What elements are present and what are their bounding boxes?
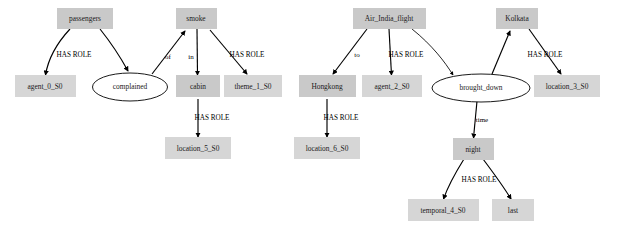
node-last[interactable]: last [492,199,534,221]
node-location_5_S0-label: location_5_S0 [177,144,220,153]
edge-label-of: of [165,53,172,61]
node-location_6_S0[interactable]: location_6_S0 [294,137,360,159]
edge-label-has-role-hongkong: HAS ROLE [324,114,360,122]
node-location_5_S0[interactable]: location_5_S0 [165,137,231,159]
node-night[interactable]: night [453,138,494,160]
edge-label-to: to [354,51,360,59]
node-last-label: last [508,206,519,215]
edge-label-has-role-night: HAS ROLE [462,176,498,184]
edge-brought_down-Kolkata [492,31,510,74]
node-agent_0_S0-label: agent_0_S0 [28,82,63,91]
edge-label-has-role-flight: HAS ROLE [389,51,425,59]
node-smoke-label: smoke [186,14,206,23]
node-passengers-label: passengers [69,14,101,23]
node-location_6_S0-label: location_6_S0 [306,144,349,153]
edge-passengers-complained [100,29,128,71]
node-temporal_4_S0[interactable]: temporal_4_S0 [408,199,479,221]
node-Air_India_flight-label: Air_India_flight [365,14,414,23]
node-cabin-label: cabin [190,82,206,91]
edge-smoke-cabin [197,29,198,75]
node-brought_down[interactable]: brought_down [432,74,530,102]
node-location_3_S0[interactable]: location_3_S0 [534,75,600,97]
node-night-label: night [465,145,481,154]
node-complained-label: complained [113,82,148,91]
node-passengers[interactable]: passengers [57,8,113,29]
edge-label-in: in [188,53,194,61]
edge-label-has-role-passengers: HAS ROLE [57,51,93,59]
edge-label-has-role-cabin: HAS ROLE [195,114,231,122]
node-agent_2_S0[interactable]: agent_2_S0 [362,75,422,97]
node-temporal_4_S0-label: temporal_4_S0 [420,206,465,215]
edge-label-has-role-smoke: HAS ROLE [230,51,266,59]
node-agent_2_S0-label: agent_2_S0 [375,82,410,91]
node-Kolkata-label: Kolkata [505,14,529,23]
node-location_3_S0-label: location_3_S0 [546,82,589,91]
node-cabin[interactable]: cabin [176,75,220,97]
node-brought_down-label: brought_down [459,83,502,92]
node-theme_1_S0-label: theme_1_S0 [235,82,272,91]
edge-label-has-role-kolkata: HAS ROLE [528,51,564,59]
node-theme_1_S0[interactable]: theme_1_S0 [224,75,282,97]
edge-Air_India_flight-Hongkong [333,29,367,74]
graph-svg: HAS ROLE of in HAS ROLE HAS ROLE to HAS … [0,0,618,236]
node-Kolkata[interactable]: Kolkata [496,8,538,29]
node-agent_0_S0[interactable]: agent_0_S0 [15,75,76,97]
node-Air_India_flight[interactable]: Air_India_flight [353,8,426,29]
node-Hongkong-label: Hongkong [311,82,343,91]
diagram-canvas: HAS ROLE of in HAS ROLE HAS ROLE to HAS … [0,0,618,236]
node-complained[interactable]: complained [93,73,168,101]
edge-label-time: time [476,116,488,124]
node-Hongkong[interactable]: Hongkong [299,75,356,97]
node-smoke[interactable]: smoke [176,8,217,29]
